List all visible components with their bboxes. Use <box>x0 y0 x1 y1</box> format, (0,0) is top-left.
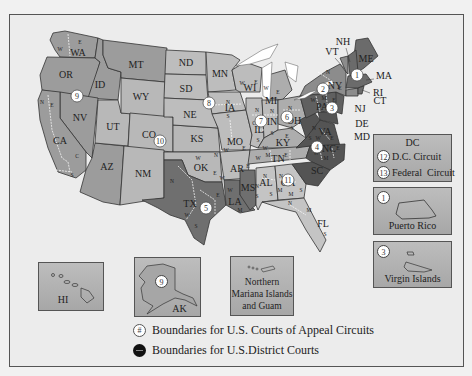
svg-text:ND: ND <box>179 57 193 68</box>
svg-text:MT: MT <box>129 59 144 70</box>
circuit-marker-1: 1 <box>351 69 363 81</box>
svg-text:AR: AR <box>230 163 244 174</box>
circuit-badge-13: 13 <box>377 166 390 179</box>
svg-text:LA: LA <box>228 196 242 207</box>
svg-text:S: S <box>255 193 258 199</box>
svg-text:M: M <box>238 207 243 213</box>
circuit-marker-5: 5 <box>200 202 212 214</box>
circuit-marker-3: 3 <box>326 102 338 114</box>
svg-text:W: W <box>239 80 245 86</box>
mariana-label-line1: Northern <box>231 277 293 288</box>
svg-text:S: S <box>270 130 273 136</box>
svg-text:W: W <box>223 147 229 153</box>
svg-text:IN: IN <box>267 116 278 127</box>
circuit-number-icon: # <box>133 324 146 337</box>
svg-text:N: N <box>170 178 174 184</box>
svg-text:M: M <box>289 191 294 197</box>
circuit-marker-11: 11 <box>282 174 294 186</box>
svg-text:N: N <box>255 183 259 189</box>
svg-text:W: W <box>227 187 233 193</box>
circuit-marker-2: 2 <box>317 83 329 95</box>
svg-text:W: W <box>262 145 268 151</box>
svg-text:5: 5 <box>204 204 208 213</box>
federal-circuit-label: Federal Circuit <box>392 167 455 178</box>
svg-text:DE: DE <box>355 118 368 129</box>
svg-text:6: 6 <box>285 113 289 122</box>
svg-text:OR: OR <box>59 69 73 80</box>
svg-text:W: W <box>219 175 225 181</box>
svg-text:MO: MO <box>227 136 243 147</box>
svg-text:VT: VT <box>325 46 338 57</box>
svg-text:NC: NC <box>322 143 336 154</box>
svg-text:N: N <box>312 125 316 131</box>
svg-text:S: S <box>308 135 311 141</box>
svg-text:M: M <box>278 187 283 193</box>
inset-puerto-rico: 1 Puerto Rico <box>373 187 452 235</box>
svg-text:NE: NE <box>183 109 196 120</box>
svg-text:11: 11 <box>284 176 292 185</box>
svg-text:KS: KS <box>191 133 204 144</box>
svg-text:WA: WA <box>70 47 86 58</box>
circuit-marker-7: 7 <box>255 115 267 127</box>
federal-circuit-row: 13 Federal Circuit <box>377 166 455 179</box>
svg-text:MA: MA <box>376 70 393 81</box>
svg-text:2: 2 <box>321 85 325 94</box>
svg-text:N: N <box>214 152 218 158</box>
svg-text:4: 4 <box>315 143 319 152</box>
dc-circuit-label: D.C. Circuit <box>392 151 441 162</box>
svg-text:S: S <box>226 113 229 119</box>
inset-virgin-islands: 3 Virgin Islands <box>373 241 452 288</box>
svg-text:CA: CA <box>53 135 68 146</box>
svg-text:M: M <box>307 207 312 213</box>
hawaii-label: HI <box>31 294 95 305</box>
svg-text:W: W <box>57 46 63 52</box>
circuit-badge-9: 9 <box>155 275 168 288</box>
svg-text:ME: ME <box>359 53 374 64</box>
circuit-marker-6: 6 <box>281 111 293 123</box>
svg-text:3: 3 <box>330 104 334 113</box>
svg-text:N: N <box>270 108 274 114</box>
svg-text:CT: CT <box>374 95 387 106</box>
svg-text:TX: TX <box>183 198 197 209</box>
svg-text:N: N <box>326 69 330 75</box>
circuit-marker-4: 4 <box>311 141 323 153</box>
svg-text:9: 9 <box>75 92 79 101</box>
legend-district: Boundaries for U.S.District Courts <box>133 343 319 358</box>
svg-text:10: 10 <box>156 137 164 146</box>
svg-text:SD: SD <box>180 83 193 94</box>
inset-dc: DC 12 D.C. Circuit 13 Federal Circuit <box>373 134 452 182</box>
svg-text:UT: UT <box>106 121 119 132</box>
svg-text:W: W <box>263 85 269 91</box>
svg-text:CO: CO <box>142 129 156 140</box>
svg-text:WY: WY <box>133 91 150 102</box>
svg-text:S: S <box>256 137 259 143</box>
svg-text:S: S <box>290 125 293 131</box>
inset-mariana-guam: Northern Mariana Islands and Guam <box>230 256 294 316</box>
svg-text:SC: SC <box>311 165 324 176</box>
svg-text:FL: FL <box>317 218 329 229</box>
mariana-label-line2: Mariana Islands <box>231 289 293 300</box>
circuit-marker-8: 8 <box>203 97 215 109</box>
inset-alaska: 9 AK <box>134 257 201 317</box>
svg-text:1: 1 <box>355 71 359 80</box>
svg-text:M: M <box>322 95 327 101</box>
legend-circuit-label: Boundaries for U.S. Courts of Appeal Cir… <box>152 323 374 338</box>
svg-text:W: W <box>195 155 201 161</box>
svg-text:N: N <box>288 105 292 111</box>
dc-circuit-row: 12 D.C. Circuit <box>377 150 441 163</box>
svg-text:W: W <box>255 155 261 161</box>
district-boundary-icon <box>133 344 146 357</box>
svg-text:NM: NM <box>135 168 151 179</box>
svg-text:NJ: NJ <box>354 103 365 114</box>
virgin-islands-label: Virgin Islands <box>374 273 451 284</box>
state-ct <box>346 88 358 96</box>
mariana-label-line3: and Guam <box>231 301 293 312</box>
circuit-marker-9: 9 <box>71 90 83 102</box>
svg-text:N: N <box>255 107 259 113</box>
circuit-marker-10: 10 <box>154 135 166 147</box>
svg-text:W: W <box>315 135 321 141</box>
svg-text:8: 8 <box>207 99 211 108</box>
legend-district-label: Boundaries for U.S.District Courts <box>152 343 319 358</box>
svg-text:S: S <box>269 191 272 197</box>
svg-text:C: C <box>75 153 79 159</box>
